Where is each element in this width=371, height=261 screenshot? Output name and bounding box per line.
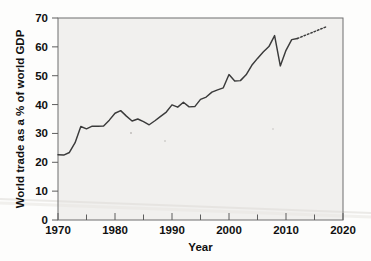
plot-area-background	[58, 18, 343, 220]
y-tick-label: 10	[35, 185, 48, 197]
y-tick-labels: 70 60 50 40 30 20 10 0	[35, 12, 48, 226]
y-tick-label: 50	[35, 70, 48, 82]
x-tick-label: 1990	[159, 224, 185, 236]
scan-speck	[130, 132, 132, 134]
x-axis-label: Year	[188, 241, 213, 253]
y-tick-label: 70	[35, 12, 48, 24]
scan-speck	[164, 140, 166, 142]
scan-speck	[272, 128, 273, 129]
world-trade-gdp-line-chart: 70 60 50 40 30 20 10 0 1970	[0, 0, 371, 261]
x-tick-label: 2020	[330, 224, 356, 236]
x-tick-label: 2000	[216, 224, 242, 236]
y-tick-label: 30	[35, 127, 48, 139]
chart-figure: 70 60 50 40 30 20 10 0 1970	[0, 0, 371, 261]
y-axis-ticks	[52, 18, 58, 220]
x-tick-label: 1980	[102, 224, 128, 236]
x-tick-labels: 1970 1980 1990 2000 2010 2020	[45, 224, 356, 236]
x-tick-label: 1970	[45, 224, 71, 236]
y-tick-label: 60	[35, 41, 48, 53]
y-axis-label: World trade as a % of world GDP	[14, 29, 26, 208]
y-tick-label: 20	[35, 156, 48, 168]
x-tick-label: 2010	[273, 224, 299, 236]
y-tick-label: 40	[35, 99, 48, 111]
